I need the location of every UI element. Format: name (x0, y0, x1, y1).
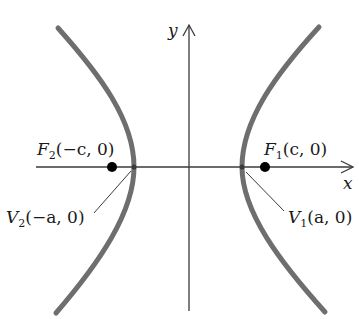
focus-f2-point (107, 162, 117, 172)
hyperbola-left-branch (56, 28, 134, 313)
f1-label: F1(c, 0) (263, 139, 327, 162)
hyperbola-right-branch (242, 27, 325, 312)
y-axis (183, 25, 195, 311)
f2-label: F2(−c, 0) (36, 139, 114, 162)
y-axis-label: y (167, 20, 178, 40)
focus-f1-point (260, 162, 270, 172)
v2-label: V2(−a, 0) (6, 207, 85, 230)
vertex-v2-marker (132, 165, 137, 170)
x-axis-label: x (343, 173, 353, 193)
hyperbola-diagram: y x F2(−c, 0) F1(c, 0) V2(−a, 0) V1(a, 0… (0, 0, 359, 319)
v1-label: V1(a, 0) (288, 207, 352, 230)
vertex-v1-marker (240, 165, 245, 170)
x-axis (36, 161, 353, 173)
